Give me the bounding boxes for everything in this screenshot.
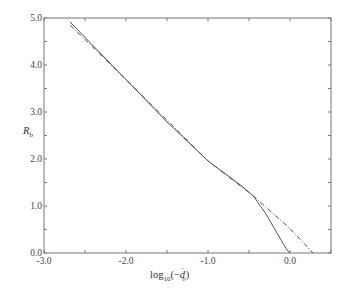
y-tick-label: 3.0 xyxy=(30,107,42,117)
x-tick-label: 0.0 xyxy=(284,256,296,266)
x-tick-label: -2.0 xyxy=(118,256,133,266)
data-series xyxy=(70,22,313,253)
chart: -3.0-2.0-1.00.0 0.01.02.03.04.05.0 Rb lo… xyxy=(0,0,348,295)
x-axis-tick-labels: -3.0-2.0-1.00.0 xyxy=(36,256,296,266)
y-tick-label: 4.0 xyxy=(30,60,42,70)
x-axis-label: log10(−d'b) xyxy=(150,266,190,283)
y-tick-label: 1.0 xyxy=(30,201,42,211)
y-tick-label: 0.0 xyxy=(30,248,42,258)
x-tick-label: -1.0 xyxy=(200,256,215,266)
y-tick-label: 2.0 xyxy=(30,154,42,164)
y-axis-label: Rb xyxy=(22,125,33,139)
plot-frame xyxy=(44,18,331,253)
x-axis-ticks xyxy=(44,18,331,253)
y-tick-label: 5.0 xyxy=(30,13,42,23)
solid-curve xyxy=(70,22,290,253)
y-axis-ticks xyxy=(44,18,331,253)
